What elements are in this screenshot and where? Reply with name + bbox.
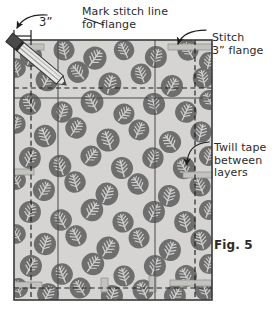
twill-tape-label: Twill tape between layers <box>214 142 266 180</box>
fabric-panel <box>3 35 223 310</box>
twill-tape-bar <box>183 172 212 178</box>
twill-tape-bar <box>168 44 212 50</box>
twill-tape-bar <box>14 282 42 288</box>
figure-caption: Fig. 5 <box>214 239 253 252</box>
twill-tape-bar <box>170 280 212 286</box>
flange-width-label: 3” <box>39 16 52 29</box>
figure-canvas: 3” Mark stitch line for flange Stitch 3”… <box>0 0 278 313</box>
twill-tape-bar <box>101 278 108 292</box>
stitch-flange-label: Stitch 3” flange <box>212 32 264 57</box>
mark-stitch-line-label: Mark stitch line for flange <box>82 6 168 31</box>
